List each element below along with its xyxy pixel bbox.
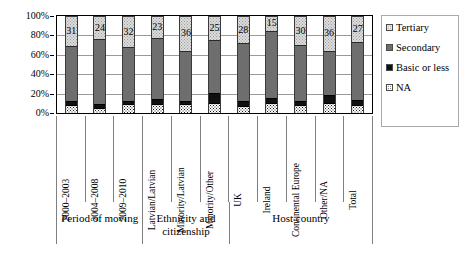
bar-group[interactable]: 28 <box>229 16 258 113</box>
y-axis-tick-mark <box>50 35 54 36</box>
bar-segment-na[interactable] <box>123 104 134 113</box>
x-axis-tick-cell: 2009–2010 <box>114 116 143 202</box>
bar-group[interactable]: 25 <box>200 16 229 113</box>
bar-segment-na[interactable] <box>295 105 306 113</box>
x-axis-group-label: Ethnicity and citizenship <box>143 202 229 244</box>
bar-segment-na[interactable] <box>152 104 163 113</box>
bar-data-label: 32 <box>124 27 134 37</box>
bar-segment-secondary[interactable] <box>266 31 277 99</box>
y-axis-tick-label: 40% <box>31 69 49 79</box>
bar-data-label: 30 <box>295 26 305 36</box>
bar-segment-secondary[interactable] <box>209 40 220 92</box>
x-axis-tick-cell: Other/NA <box>316 116 345 202</box>
bar-group[interactable]: 15 <box>257 16 286 113</box>
x-axis-tick-cell: Latvian/Latvian <box>143 116 172 202</box>
stacked-bar[interactable] <box>265 16 278 113</box>
bar-segment-na[interactable] <box>352 105 363 113</box>
bar-data-label: 25 <box>210 23 220 33</box>
x-axis-group-label: Host country <box>230 202 373 244</box>
legend-item-label: Tertiary <box>396 22 429 33</box>
bar-segment-secondary[interactable] <box>238 43 249 101</box>
y-axis-tick-label: 20% <box>31 89 49 99</box>
legend-item-label: Secondary <box>396 42 440 53</box>
bar-segment-secondary[interactable] <box>66 46 77 101</box>
bar-segment-secondary[interactable] <box>152 38 163 99</box>
y-axis-tick-mark <box>50 55 54 56</box>
bar-group[interactable]: 23 <box>143 16 172 113</box>
tertiary-swatch-icon <box>386 24 393 31</box>
bar-data-label: 15 <box>267 18 277 28</box>
bar-segment-secondary[interactable] <box>295 45 306 101</box>
bar-segment-secondary[interactable] <box>180 51 191 101</box>
x-axis-group-label-text: Host country <box>272 212 329 225</box>
bar-segment-na[interactable] <box>209 103 220 113</box>
bar-group[interactable]: 31 <box>57 16 86 113</box>
stacked-bar-chart: 0%20%40%60%80%100% 312432233625281530362… <box>0 0 463 276</box>
bar-group[interactable]: 36 <box>315 16 344 113</box>
bar-segment-basic-or-less[interactable] <box>324 95 335 104</box>
y-axis-tick-label: 80% <box>31 30 49 40</box>
y-axis-tick-label: 0% <box>36 108 49 118</box>
bar-group[interactable]: 30 <box>286 16 315 113</box>
x-axis-group-label-text: Period of moving <box>61 212 138 225</box>
bar-group[interactable]: 24 <box>86 16 115 113</box>
bar-data-label: 23 <box>152 22 162 32</box>
bar-segment-secondary[interactable] <box>352 42 363 100</box>
bar-data-label: 28 <box>238 25 248 35</box>
bar-segment-na[interactable] <box>238 106 249 113</box>
bar-data-label: 24 <box>95 23 105 33</box>
legend-item-label: NA <box>396 82 411 93</box>
legend-item-label: Basic or less <box>396 62 449 73</box>
bar-segment-secondary[interactable] <box>123 47 134 101</box>
plot-area: 3124322336252815303627 <box>56 15 373 114</box>
legend-item[interactable]: NA <box>386 82 455 93</box>
x-axis-tick-cell: Total <box>344 116 373 202</box>
x-axis-tick-cell: UK <box>229 116 258 202</box>
x-axis-group-labels: Period of movingEthnicity and citizenshi… <box>56 202 373 244</box>
na-swatch-icon <box>386 84 393 91</box>
bar-segment-na[interactable] <box>324 103 335 113</box>
bar-series-container: 3124322336252815303627 <box>57 16 372 113</box>
y-axis-tick-mark <box>50 113 54 114</box>
y-axis-tick-mark <box>50 94 54 95</box>
bar-data-label: 31 <box>66 26 76 36</box>
y-axis-tick-label: 100% <box>26 11 49 21</box>
bar-data-label: 27 <box>353 24 363 34</box>
legend-item[interactable]: Tertiary <box>386 22 455 33</box>
bar-segment-secondary[interactable] <box>94 39 105 104</box>
bar-segment-na[interactable] <box>66 105 77 113</box>
bar-group[interactable]: 36 <box>172 16 201 113</box>
basic-or-less-swatch-icon <box>386 64 393 71</box>
x-axis-category-labels: 2000–20032004–20082009–2010Latvian/Latvi… <box>56 116 373 202</box>
x-axis-tick-cell: Minority/Other <box>201 116 230 202</box>
bar-data-label: 36 <box>324 28 334 38</box>
legend-item[interactable]: Basic or less <box>386 62 455 73</box>
x-axis-tick-cell: Ireland <box>258 116 287 202</box>
x-axis-group-label: Period of moving <box>57 202 143 244</box>
bar-data-label: 36 <box>181 28 191 38</box>
legend-item[interactable]: Secondary <box>386 42 455 53</box>
bar-segment-na[interactable] <box>180 104 191 113</box>
x-axis-tick-cell: Continental Europe <box>287 116 316 202</box>
bar-group[interactable]: 27 <box>343 16 372 113</box>
x-axis-group-label-text: Ethnicity and citizenship <box>143 212 228 238</box>
x-axis-tick-cell: 2000–2003 <box>57 116 86 202</box>
y-axis-tick-label: 60% <box>31 50 49 60</box>
chart-legend: TertiarySecondaryBasic or lessNA <box>381 15 459 127</box>
y-axis-tick-mark <box>50 74 54 75</box>
y-axis-tick-mark <box>50 16 54 17</box>
y-axis: 0%20%40%60%80%100% <box>0 15 54 114</box>
x-axis-tick-cell: Minority/Latvian <box>172 116 201 202</box>
secondary-swatch-icon <box>386 44 393 51</box>
x-axis-tick-cell: 2004–2008 <box>86 116 115 202</box>
bar-group[interactable]: 32 <box>114 16 143 113</box>
bar-segment-secondary[interactable] <box>324 51 335 95</box>
bar-segment-na[interactable] <box>94 108 105 113</box>
bar-segment-na[interactable] <box>266 103 277 113</box>
bar-segment-basic-or-less[interactable] <box>209 93 220 104</box>
